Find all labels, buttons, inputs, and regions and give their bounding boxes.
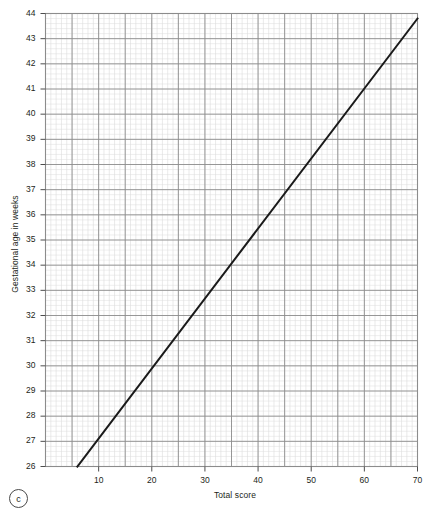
y-tick-label: 33 [10,284,36,294]
major-gridlines [46,14,418,467]
y-tick-label: 35 [10,234,36,244]
y-tick-label: 37 [10,184,36,194]
y-tick-label: 30 [10,360,36,370]
y-tick-label: 32 [10,310,36,320]
y-tick-label: 36 [10,209,36,219]
x-axis-title: Total score [175,490,295,500]
axis-tick-marks [41,14,418,472]
y-tick-label: 31 [10,335,36,345]
y-tick-label: 39 [10,133,36,143]
y-tick-label: 34 [10,259,36,269]
y-tick-label: 38 [10,159,36,169]
x-tick-label: 10 [86,475,112,485]
y-tick-label: 40 [10,108,36,118]
x-tick-label: 50 [298,475,324,485]
y-tick-label: 41 [10,83,36,93]
x-tick-label: 20 [139,475,165,485]
x-tick-label: 30 [192,475,218,485]
y-tick-label: 43 [10,33,36,43]
panel-label-c: c [9,489,28,508]
x-tick-label: 40 [245,475,271,485]
x-tick-label: 70 [405,475,429,485]
gestational-age-nomogram-figure: Gestational age in weeks Total score c 2… [0,0,429,516]
y-tick-label: 26 [10,461,36,471]
y-tick-label: 29 [10,385,36,395]
x-tick-label: 60 [351,475,377,485]
chart-plot-area [0,0,429,516]
y-tick-label: 44 [10,8,36,18]
y-tick-label: 27 [10,435,36,445]
y-tick-label: 28 [10,410,36,420]
y-tick-label: 42 [10,58,36,68]
